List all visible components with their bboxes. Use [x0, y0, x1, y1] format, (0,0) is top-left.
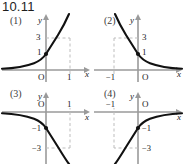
panel-1-plot: y x 3 1 O 1: [0, 12, 92, 88]
panel-4-ytick-minus-1: −1: [142, 124, 151, 133]
panel-1-y-axis-label: y: [38, 16, 42, 25]
panel-4-y-arrow-icon: [135, 92, 141, 98]
panel-2-y-arrow-icon: [135, 14, 141, 20]
panel-2-y-axis-label: y: [130, 16, 134, 25]
panel-4-plot: y x O −1 −1 −3: [92, 86, 184, 162]
panel-4: (4) y x O −1 −1 −3: [92, 86, 184, 162]
panel-1-origin-label: O: [38, 73, 45, 82]
panel-2-xtick-minus-1: −1: [106, 73, 115, 82]
panel-1-ytick-3: 3: [36, 33, 41, 42]
panel-3-plot: y x O 1 −1 −3: [0, 86, 92, 162]
panel-3-y-arrow-icon: [43, 92, 49, 98]
panel-3-ytick-minus-1: −1: [32, 124, 41, 133]
panel-2-ytick-1: 1: [142, 48, 147, 57]
panel-4-ytick-minus-3: −3: [142, 144, 151, 153]
panel-1: (1) y x 3 1 O 1: [0, 12, 92, 88]
panel-1-x-axis-label: x: [85, 70, 89, 79]
panel-1-point-marker: [44, 52, 48, 56]
panel-1-ytick-1: 1: [37, 48, 42, 57]
panel-2: (2) y x 3 1 O −1: [92, 12, 184, 88]
panel-4-y-axis-label: y: [130, 92, 134, 101]
panel-2-ytick-3: 3: [142, 33, 147, 42]
panel-4-origin-label: O: [142, 100, 149, 109]
panel-3-origin-label: O: [38, 100, 45, 109]
panel-3-point-marker: [44, 126, 48, 130]
panel-1-y-arrow-icon: [43, 14, 49, 20]
panel-2-origin-label: O: [142, 73, 149, 82]
panel-2-plot: y x 3 1 O −1: [92, 12, 184, 88]
panel-4-curve: [115, 113, 182, 164]
panel-2-x-axis-label: x: [177, 70, 181, 79]
panel-4-xtick-minus-1: −1: [106, 100, 115, 109]
panel-3-ytick-minus-3: −3: [32, 144, 41, 153]
panel-2-point-marker: [136, 52, 140, 56]
panel-3-curve: [2, 113, 69, 164]
panel-3: (3) y x O 1 −1 −3: [0, 86, 92, 162]
figure-sheet: 10.11 (1) y x 3 1 O 1: [0, 0, 184, 164]
panel-4-point-marker: [136, 126, 140, 130]
panel-2-curve: [115, 14, 182, 69]
panel-3-xtick-1: 1: [67, 100, 72, 109]
panel-1-xtick-1: 1: [67, 73, 72, 82]
panel-4-x-axis-label: x: [177, 113, 181, 122]
panel-3-x-axis-label: x: [85, 113, 89, 122]
